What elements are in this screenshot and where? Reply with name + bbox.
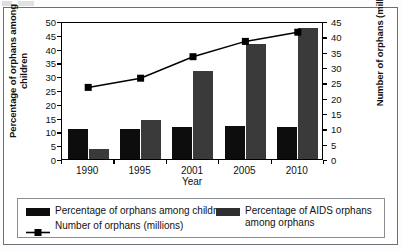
line-marker-square-icon bbox=[242, 38, 249, 45]
legend-item-orphans-among-children: Percentage of orphans among children bbox=[26, 205, 227, 217]
y-axis-right-tick-label: 10 bbox=[331, 124, 342, 135]
x-axis-tick-label: 2001 bbox=[181, 165, 203, 176]
line-marker-square-icon bbox=[137, 75, 144, 82]
chart-legend: Percentage of orphans among children Num… bbox=[17, 198, 385, 238]
x-axis-tick-label: 1995 bbox=[128, 165, 150, 176]
x-axis-tick-mark bbox=[218, 160, 219, 164]
y-axis-left-tick-label: 5 bbox=[51, 141, 56, 152]
x-axis-title: Year bbox=[61, 176, 323, 187]
legend-item-aids-orphans: Percentage of AIDS orphans among orphans bbox=[216, 205, 384, 228]
y-axis-right-tick-label: 40 bbox=[331, 32, 342, 43]
x-axis-tick-mark bbox=[271, 160, 272, 164]
y-axis-right-tick-label: 20 bbox=[331, 93, 342, 104]
y-axis-left-tick-label: 30 bbox=[45, 72, 56, 83]
x-axis-tick-mark bbox=[323, 160, 324, 164]
y-axis-right-tick-label: 25 bbox=[331, 78, 342, 89]
y-axis-right-tick-label: 0 bbox=[331, 155, 336, 166]
plot-area bbox=[61, 22, 323, 160]
y-axis-left-tick-label: 25 bbox=[45, 86, 56, 97]
legend-swatch-dark-bar-icon bbox=[26, 208, 50, 216]
y-axis-left-ticks: 50454035302520151050 bbox=[32, 22, 56, 160]
y-axis-right-title: Number of orphans (millions) bbox=[374, 0, 385, 112]
y-axis-right-tick-label: 35 bbox=[331, 47, 342, 58]
x-axis-tick-label: 1990 bbox=[76, 165, 98, 176]
x-axis-tick-label: 2010 bbox=[286, 165, 308, 176]
y-axis-right-ticks: 454035302520151050 bbox=[331, 22, 355, 160]
y-axis-right-tick-label: 45 bbox=[331, 17, 342, 28]
x-axis-tick-mark bbox=[166, 160, 167, 164]
chart-figure-border: Percentage of orphans among children Num… bbox=[3, 7, 398, 245]
y-axis-left-tick-label: 20 bbox=[45, 99, 56, 110]
y-axis-left-tick-label: 15 bbox=[45, 113, 56, 124]
line-series-number-of-orphans bbox=[62, 23, 324, 161]
x-axis-tick-label: 2005 bbox=[233, 165, 255, 176]
y-axis-left-tick-label: 40 bbox=[45, 44, 56, 55]
legend-label-orphans-among-children: Percentage of orphans among children bbox=[55, 205, 227, 217]
y-axis-left-title: Percentage of orphans among children bbox=[7, 1, 29, 141]
y-axis-left-tick-label: 0 bbox=[51, 155, 56, 166]
x-axis-tick-mark bbox=[113, 160, 114, 164]
x-axis-ticks: 19901995200120052010 bbox=[61, 160, 323, 176]
y-axis-left-tick-label: 35 bbox=[45, 58, 56, 69]
x-axis-tick-mark bbox=[61, 160, 62, 164]
y-axis-left-tick-label: 10 bbox=[45, 127, 56, 138]
y-axis-right-tick-label: 30 bbox=[331, 63, 342, 74]
legend-label-number-of-orphans: Number of orphans (millions) bbox=[55, 220, 183, 232]
y-axis-right-tick-label: 5 bbox=[331, 139, 336, 150]
y-axis-left-tick-label: 50 bbox=[45, 17, 56, 28]
line-marker-square-icon bbox=[294, 29, 301, 36]
legend-line-marker-icon bbox=[26, 223, 50, 241]
line-marker-square-icon bbox=[190, 53, 197, 60]
y-axis-left-tick-label: 45 bbox=[45, 30, 56, 41]
chart-screenshot: Percentage of orphans among children Num… bbox=[0, 0, 403, 251]
legend-item-number-of-orphans: Number of orphans (millions) bbox=[26, 220, 183, 241]
y-axis-right-tick-label: 15 bbox=[331, 109, 342, 120]
legend-label-aids-orphans: Percentage of AIDS orphans among orphans bbox=[245, 205, 384, 228]
chart-area: Percentage of orphans among children Num… bbox=[4, 8, 399, 191]
line-marker-square-icon bbox=[85, 84, 92, 91]
legend-swatch-gray-bar-icon bbox=[216, 208, 240, 216]
